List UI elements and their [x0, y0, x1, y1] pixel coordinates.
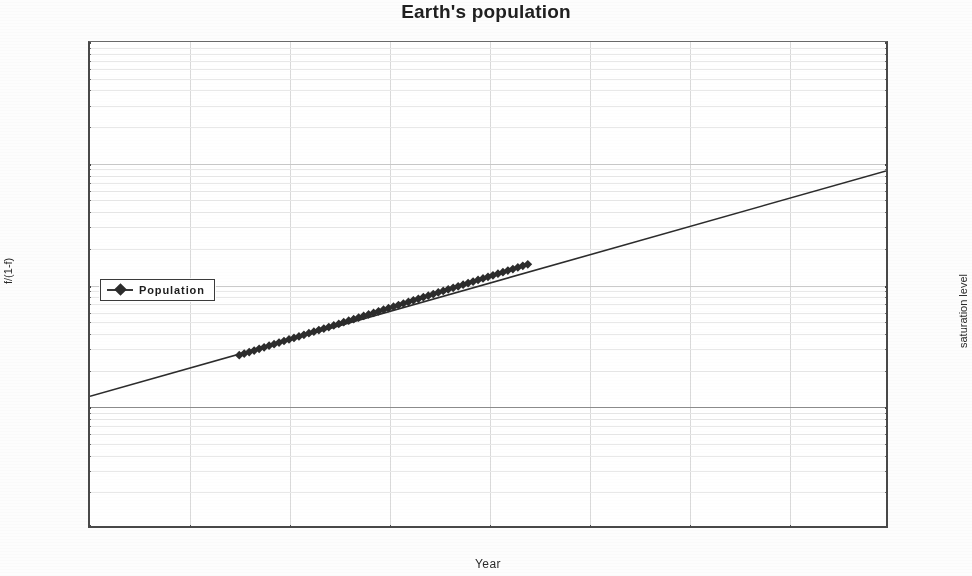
- y-axis-tick-right: [885, 286, 888, 288]
- x-axis-title: Year: [88, 557, 888, 571]
- y-axis-minor-tick-left: [88, 191, 91, 192]
- y-axis-title-left: f/(1-f): [2, 258, 14, 284]
- y-axis-minor-tick-left: [88, 200, 91, 201]
- y-axis-minor-tick-right: [885, 419, 888, 420]
- y-axis-minor-tick-left: [88, 349, 91, 350]
- x-axis-tick: [390, 525, 391, 528]
- y-axis-minor-tick-left: [88, 106, 91, 107]
- y-axis-minor-tick-right: [885, 322, 888, 323]
- chart-legend[interactable]: Population: [100, 279, 215, 301]
- y-axis-minor-tick-right: [885, 191, 888, 192]
- y-axis-minor-tick-left: [88, 444, 91, 445]
- y-axis-minor-tick-right: [885, 456, 888, 457]
- y-axis-minor-tick-left: [88, 334, 91, 335]
- x-axis-tick: [690, 525, 691, 528]
- y-axis-minor-tick-left: [88, 169, 91, 170]
- y-axis-minor-tick-left: [88, 322, 91, 323]
- y-axis-minor-tick-right: [885, 249, 888, 250]
- y-axis-tick-left: [88, 42, 91, 44]
- y-axis-minor-tick-left: [88, 183, 91, 184]
- y-axis-minor-tick-left: [88, 371, 91, 372]
- y-axis-tick-left: [88, 164, 91, 166]
- y-axis-tick-left: [88, 407, 91, 409]
- plot-area: 1920194019601980200020202040206020800 01…: [88, 41, 888, 528]
- y-axis-minor-tick-right: [885, 471, 888, 472]
- y-axis-minor-tick-left: [88, 492, 91, 493]
- y-axis-minor-tick-left: [88, 419, 91, 420]
- y-axis-minor-tick-right: [885, 169, 888, 170]
- x-axis-tick: [190, 525, 191, 528]
- y-axis-minor-tick-right: [885, 434, 888, 435]
- y-axis-minor-tick-left: [88, 79, 91, 80]
- chart-figure: Earth's population 192019401960198020002…: [0, 0, 972, 576]
- y-axis-title-right: saturation level: [957, 274, 969, 348]
- y-axis-minor-tick-right: [885, 127, 888, 128]
- y-axis-minor-tick-right: [885, 304, 888, 305]
- legend-label-population: Population: [139, 284, 205, 296]
- legend-diamond-icon: [107, 285, 133, 295]
- y-axis-minor-tick-right: [885, 61, 888, 62]
- y-axis-minor-tick-right: [885, 200, 888, 201]
- y-axis-minor-tick-left: [88, 54, 91, 55]
- y-axis-tick-right: [885, 407, 888, 409]
- y-axis-minor-tick-right: [885, 371, 888, 372]
- y-axis-minor-tick-left: [88, 249, 91, 250]
- y-axis-tick-right: [885, 164, 888, 166]
- y-axis-minor-tick-left: [88, 313, 91, 314]
- y-axis-minor-tick-left: [88, 456, 91, 457]
- y-axis-minor-tick-right: [885, 106, 888, 107]
- y-axis-minor-tick-right: [885, 48, 888, 49]
- y-axis-minor-tick-right: [885, 444, 888, 445]
- y-axis-minor-tick-left: [88, 297, 91, 298]
- y-axis-minor-tick-right: [885, 90, 888, 91]
- y-axis-minor-tick-left: [88, 127, 91, 128]
- y-axis-minor-tick-left: [88, 176, 91, 177]
- x-axis-tick: [90, 525, 91, 528]
- y-axis-minor-tick-right: [885, 54, 888, 55]
- y-axis-minor-tick-left: [88, 434, 91, 435]
- y-axis-minor-tick-right: [885, 297, 888, 298]
- x-axis-tick: [790, 525, 791, 528]
- y-axis-minor-tick-left: [88, 471, 91, 472]
- x-axis-tick: [490, 525, 491, 528]
- x-axis-tick: [290, 525, 291, 528]
- y-axis-minor-tick-right: [885, 212, 888, 213]
- y-axis-tick-right: [885, 42, 888, 44]
- y-axis-minor-tick-right: [885, 492, 888, 493]
- y-axis-tick-left: [88, 286, 91, 288]
- y-axis-minor-tick-right: [885, 183, 888, 184]
- chart-title: Earth's population: [0, 1, 972, 23]
- y-axis-minor-tick-right: [885, 313, 888, 314]
- y-axis-minor-tick-right: [885, 79, 888, 80]
- y-axis-minor-tick-right: [885, 349, 888, 350]
- y-axis-minor-tick-right: [885, 413, 888, 414]
- y-axis-minor-tick-left: [88, 304, 91, 305]
- y-axis-minor-tick-left: [88, 48, 91, 49]
- y-axis-minor-tick-right: [885, 291, 888, 292]
- y-axis-minor-tick-right: [885, 426, 888, 427]
- y-axis-minor-tick-right: [885, 334, 888, 335]
- y-axis-minor-tick-left: [88, 413, 91, 414]
- y-axis-minor-tick-left: [88, 227, 91, 228]
- y-axis-minor-tick-right: [885, 176, 888, 177]
- y-axis-minor-tick-left: [88, 426, 91, 427]
- y-axis-minor-tick-left: [88, 61, 91, 62]
- y-axis-minor-tick-right: [885, 69, 888, 70]
- y-axis-minor-tick-right: [885, 227, 888, 228]
- y-axis-minor-tick-left: [88, 212, 91, 213]
- x-axis-tick: [590, 525, 591, 528]
- y-axis-minor-tick-left: [88, 291, 91, 292]
- y-axis-minor-tick-left: [88, 90, 91, 91]
- y-axis-minor-tick-left: [88, 69, 91, 70]
